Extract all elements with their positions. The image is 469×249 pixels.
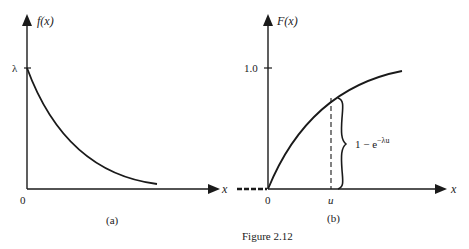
figure-canvas: f(x) λ x 0 (a) F(x) 1.0 1 − e−λu x 0 u (… [0,0,469,249]
panel-b: F(x) 1.0 1 − e−λu x 0 u (b) [237,14,457,225]
panel-b-one-label: 1.0 [244,62,258,74]
panel-b-x-axis-label: x [450,182,457,196]
panel-a-lambda-label: λ [12,62,18,74]
panel-b-brace-label-exp: −λu [377,136,389,145]
panel-a-x-axis-label: x [221,182,228,196]
panel-a: f(x) λ x 0 (a) [12,14,228,227]
panel-a-x-axis-arrow-icon [208,184,220,194]
panel-b-brace-icon [338,98,346,189]
panel-a-y-axis-arrow-icon [22,14,32,26]
panel-b-brace-label: 1 − e−λu [355,136,389,150]
panel-b-x-axis-arrow-icon [435,184,447,194]
panel-b-cdf-curve [268,71,402,189]
panel-b-brace-label-base: 1 − e [355,138,377,150]
panel-b-caption: (b) [327,212,340,225]
panel-b-y-axis-label: F(x) [276,14,298,28]
panel-a-y-axis-label: f(x) [37,14,54,28]
panel-b-y-axis-arrow-icon [263,14,273,26]
panel-a-caption: (a) [106,214,119,227]
panel-a-origin-label: 0 [20,194,26,206]
panel-b-origin-label: 0 [265,194,271,206]
panel-b-u-label: u [328,194,334,206]
panel-a-density-curve [27,68,157,184]
figure-caption: Figure 2.12 [242,230,293,242]
